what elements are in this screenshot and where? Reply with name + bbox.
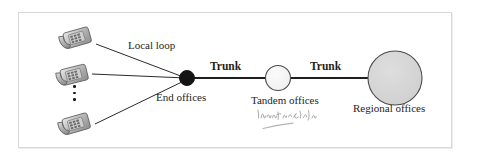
local-loop-label: Local loop	[128, 40, 175, 51]
tandem-offices-label: Tandem offices	[251, 95, 319, 106]
telephone-icon-2[interactable]	[55, 64, 89, 87]
end-offices-node[interactable]	[180, 71, 195, 86]
trunk-label-1: Trunk	[210, 61, 241, 73]
regional-offices-node[interactable]	[368, 51, 422, 105]
telephone-icon-3[interactable]	[57, 112, 91, 136]
end-offices-label: End offices	[156, 92, 206, 103]
ellipsis-dot	[73, 92, 76, 95]
network-diagram	[0, 0, 480, 161]
vertical-ellipsis	[73, 85, 76, 101]
trunk-label-2: Trunk	[310, 61, 341, 73]
figure-root: Local loop End offices Trunk Trunk Tande…	[0, 0, 480, 161]
ellipsis-dot	[73, 85, 76, 88]
local-loop-links	[92, 44, 186, 124]
regional-offices-label: Regional offices	[353, 103, 425, 114]
local-loop-link-2	[92, 74, 186, 78]
tandem-offices-node[interactable]	[266, 66, 291, 91]
telephone-icon-1[interactable]	[58, 26, 92, 50]
ellipsis-dot	[73, 98, 76, 101]
